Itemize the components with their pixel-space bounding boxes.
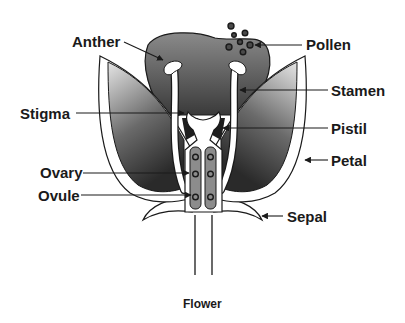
label-stigma: Stigma [20, 106, 70, 121]
label-sepal: Sepal [287, 209, 327, 224]
label-ovary: Ovary [40, 165, 83, 180]
label-petal: Petal [331, 153, 367, 168]
label-ovule: Ovule [38, 188, 80, 203]
label-anther: Anther [72, 34, 120, 49]
label-stamen: Stamen [331, 83, 385, 98]
pistil [182, 112, 225, 212]
diagram-caption: Flower [183, 298, 222, 310]
label-pistil: Pistil [331, 121, 367, 136]
label-pollen: Pollen [306, 37, 351, 52]
stem [195, 215, 212, 275]
